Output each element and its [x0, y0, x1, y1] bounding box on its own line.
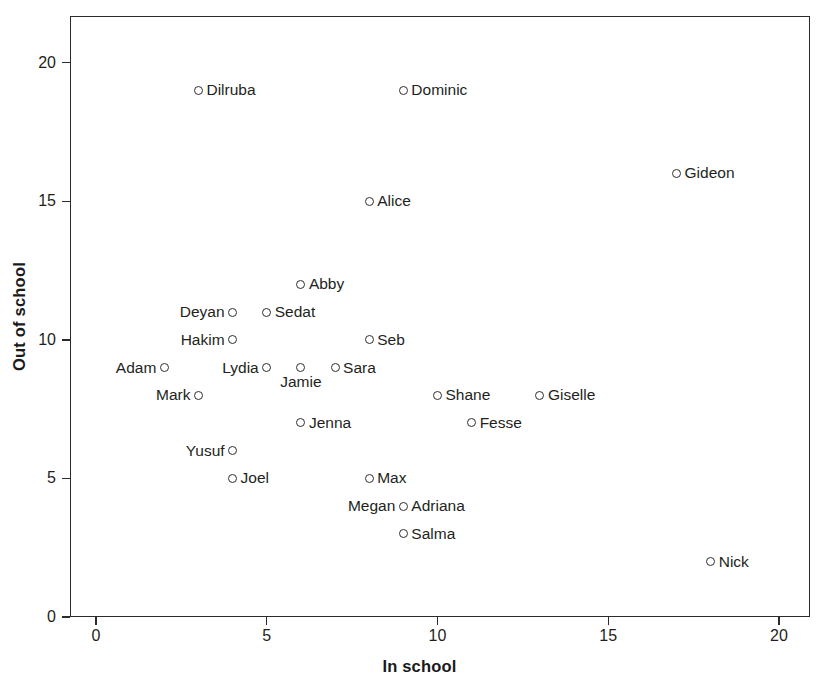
x-tick-label-20: 20 — [770, 628, 788, 644]
y-tick-0 — [62, 616, 70, 617]
data-point-label: Deyan — [180, 304, 225, 320]
data-point-label: Joel — [241, 471, 269, 487]
open-circle-marker-icon[interactable] — [365, 335, 374, 344]
data-point-label: Giselle — [548, 387, 595, 403]
data-point-label: Gideon — [685, 166, 735, 182]
open-circle-marker-icon[interactable] — [194, 86, 203, 95]
data-point-label: Abby — [309, 277, 344, 293]
y-tick-label-5: 5 — [47, 470, 56, 486]
data-point-label: Lydia — [222, 360, 258, 376]
data-point-label: Megan — [348, 498, 395, 514]
x-tick-label-5: 5 — [262, 628, 271, 644]
open-circle-marker-icon[interactable] — [399, 86, 408, 95]
data-point-label: Max — [377, 471, 406, 487]
data-point-label: Adriana — [411, 498, 464, 514]
y-axis-title-text: Out of school — [10, 262, 29, 371]
x-tick-20 — [778, 617, 779, 625]
x-axis-title: In school — [0, 657, 839, 676]
open-circle-marker-icon[interactable] — [194, 391, 203, 400]
data-point-label: Nick — [719, 554, 749, 570]
open-circle-marker-icon[interactable] — [365, 474, 374, 483]
x-tick-0 — [95, 617, 96, 625]
open-circle-marker-icon[interactable] — [365, 197, 374, 206]
open-circle-marker-icon[interactable] — [672, 169, 681, 178]
data-point-label: Jamie — [280, 374, 321, 390]
data-point-label: Alice — [377, 193, 411, 209]
y-tick-label-10: 10 — [38, 332, 56, 348]
open-circle-marker-icon[interactable] — [262, 308, 271, 317]
data-point-label: Hakim — [181, 332, 225, 348]
open-circle-marker-icon[interactable] — [228, 308, 237, 317]
y-axis-title: Out of school — [8, 0, 30, 633]
open-circle-marker-icon[interactable] — [433, 391, 442, 400]
data-point-label: Salma — [411, 526, 455, 542]
data-point-label: Yusuf — [186, 443, 225, 459]
y-tick-label-0: 0 — [47, 609, 56, 625]
x-tick-label-15: 15 — [599, 628, 617, 644]
data-point-label: Seb — [377, 332, 405, 348]
data-point-label: Sedat — [275, 304, 316, 320]
data-point-label: Fesse — [480, 415, 522, 431]
y-tick-label-15: 15 — [38, 193, 56, 209]
data-point-label: Dominic — [411, 83, 467, 99]
x-tick-label-0: 0 — [92, 628, 101, 644]
x-tick-5 — [266, 617, 267, 625]
y-tick-label-20: 20 — [38, 55, 56, 71]
open-circle-marker-icon[interactable] — [331, 363, 340, 372]
y-tick-20 — [62, 62, 70, 63]
data-point-label: Sara — [343, 360, 376, 376]
scatter-plot-figure: 0510152005101520DilrubaDominicGideonAlic… — [0, 0, 839, 692]
x-tick-label-10: 10 — [429, 628, 447, 644]
y-tick-15 — [62, 201, 70, 202]
open-circle-marker-icon[interactable] — [228, 474, 237, 483]
data-point-label: Jenna — [309, 415, 351, 431]
x-tick-15 — [608, 617, 609, 625]
open-circle-marker-icon[interactable] — [160, 363, 169, 372]
data-point-label: Mark — [156, 387, 190, 403]
y-tick-5 — [62, 478, 70, 479]
data-point-label: Shane — [446, 387, 491, 403]
data-point-label: Adam — [116, 360, 157, 376]
y-tick-10 — [62, 339, 70, 340]
data-point-label: Dilruba — [206, 83, 255, 99]
open-circle-marker-icon[interactable] — [399, 502, 408, 511]
x-tick-10 — [437, 617, 438, 625]
